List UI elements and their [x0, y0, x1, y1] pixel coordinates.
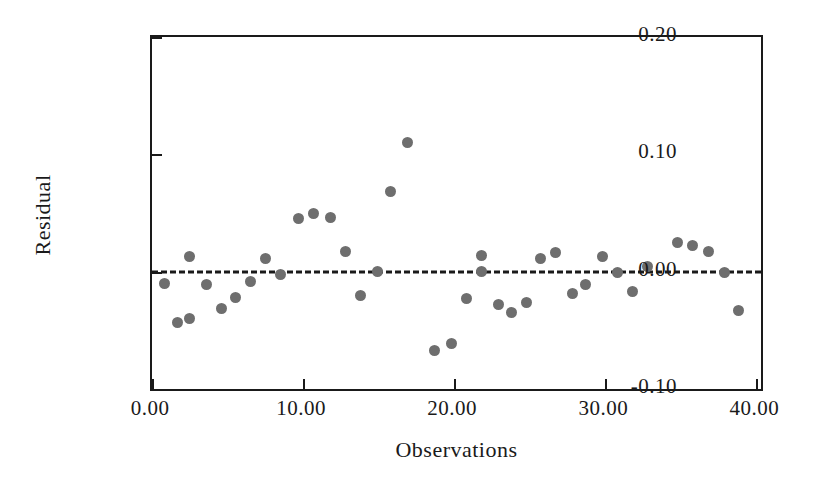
- x-axis-tick-label: 30.00: [578, 398, 628, 419]
- data-point: [385, 186, 396, 197]
- data-point: [580, 279, 591, 290]
- x-axis-title: Observations: [150, 437, 763, 463]
- data-point: [230, 292, 241, 303]
- x-axis-tick: [454, 379, 456, 390]
- y-axis-tick-label: 0.00: [638, 259, 677, 280]
- data-point: [535, 253, 546, 264]
- data-point: [550, 247, 561, 258]
- data-point: [733, 305, 744, 316]
- data-point: [245, 276, 256, 287]
- plot-frame: [150, 35, 763, 391]
- residual-scatter-chart: Residual Observations 0.200.100.00-0.100…: [0, 0, 837, 481]
- data-point: [703, 246, 714, 257]
- data-point: [372, 266, 383, 277]
- data-point: [446, 338, 457, 349]
- data-point: [627, 286, 638, 297]
- y-axis-tick: [151, 154, 162, 156]
- data-point: [567, 288, 578, 299]
- data-point: [506, 307, 517, 318]
- data-point: [325, 212, 336, 223]
- data-point: [402, 137, 413, 148]
- data-point: [216, 303, 227, 314]
- y-axis-title: Residual: [22, 120, 62, 310]
- y-axis-tick-label: 0.20: [638, 24, 677, 45]
- data-point: [159, 278, 170, 289]
- data-point: [476, 266, 487, 277]
- x-axis-tick: [605, 379, 607, 390]
- data-point: [293, 213, 304, 224]
- x-axis-tick-label: 10.00: [276, 398, 326, 419]
- data-point: [612, 267, 623, 278]
- x-axis-tick-label: 40.00: [730, 398, 780, 419]
- data-point: [184, 251, 195, 262]
- y-axis-title-text: Residual: [29, 175, 55, 256]
- y-axis-tick: [151, 37, 162, 39]
- data-point: [476, 250, 487, 261]
- data-point: [201, 279, 212, 290]
- plot-area: [152, 37, 761, 389]
- data-point: [355, 290, 366, 301]
- data-point: [184, 313, 195, 324]
- x-axis-tick-label: 20.00: [427, 398, 477, 419]
- data-point: [308, 208, 319, 219]
- x-axis-tick-label: 0.00: [131, 398, 170, 419]
- data-point: [687, 240, 698, 251]
- data-point: [275, 269, 286, 280]
- y-axis-tick: [151, 272, 162, 274]
- data-point: [493, 299, 504, 310]
- data-point: [672, 237, 683, 248]
- data-point: [260, 253, 271, 264]
- data-point: [521, 297, 532, 308]
- data-point: [340, 246, 351, 257]
- data-point: [429, 345, 440, 356]
- x-axis-tick: [756, 379, 758, 390]
- data-point: [172, 317, 183, 328]
- y-axis-tick-label: -0.10: [631, 376, 677, 397]
- data-point: [597, 251, 608, 262]
- y-axis-tick-label: 0.10: [638, 141, 677, 162]
- x-axis-tick: [152, 379, 154, 390]
- data-point: [461, 293, 472, 304]
- x-axis-tick: [303, 379, 305, 390]
- data-point: [719, 267, 730, 278]
